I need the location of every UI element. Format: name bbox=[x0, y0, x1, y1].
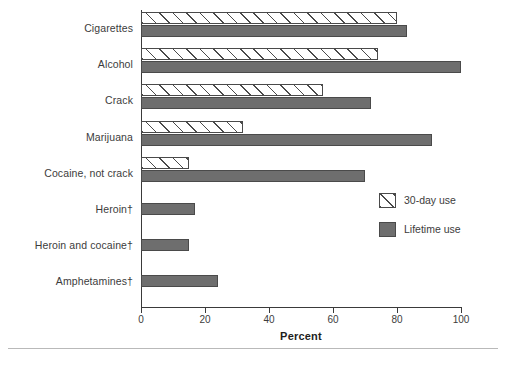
bar-row-cocaine-not-crack: Cocaine, not crack bbox=[141, 155, 461, 191]
legend-label-lifetime-use: Lifetime use bbox=[404, 223, 461, 235]
bar-row-cigarettes: Cigarettes bbox=[141, 10, 461, 46]
bar-lifetime-cocaine-not-crack bbox=[141, 170, 365, 182]
category-label-cocaine-not-crack: Cocaine, not crack bbox=[44, 167, 133, 179]
bar-30-day-cocaine-not-crack bbox=[141, 157, 189, 169]
category-label-heroin-and-cocaine: Heroin and cocaine† bbox=[35, 239, 133, 251]
solid-gray-swatch-icon bbox=[379, 222, 396, 237]
bar-row-alcohol: Alcohol bbox=[141, 46, 461, 82]
bar-30-day-crack bbox=[141, 84, 323, 96]
bar-row-amphetamines: Amphetamines† bbox=[141, 263, 461, 299]
bar-lifetime-heroin-and-cocaine bbox=[141, 239, 189, 251]
x-axis-title: Percent bbox=[141, 330, 461, 342]
x-tick-100 bbox=[461, 308, 462, 313]
category-label-cigarettes: Cigarettes bbox=[84, 22, 133, 34]
bar-lifetime-amphetamines bbox=[141, 275, 218, 287]
category-label-crack: Crack bbox=[105, 94, 133, 106]
bar-lifetime-alcohol bbox=[141, 61, 461, 73]
legend-item-lifetime-use: Lifetime use bbox=[379, 221, 499, 237]
legend-item-30-day-use: 30-day use bbox=[379, 192, 499, 208]
x-tick-label-40: 40 bbox=[263, 314, 274, 325]
chart-legend: 30-day use Lifetime use bbox=[379, 192, 499, 250]
category-label-alcohol: Alcohol bbox=[98, 58, 133, 70]
x-tick-40 bbox=[269, 308, 270, 313]
x-tick-label-0: 0 bbox=[138, 314, 144, 325]
bar-lifetime-heroin bbox=[141, 203, 195, 215]
category-label-amphetamines: Amphetamines† bbox=[56, 275, 133, 287]
category-label-heroin: Heroin† bbox=[96, 203, 133, 215]
bar-30-day-alcohol bbox=[141, 48, 378, 60]
x-tick-80 bbox=[397, 308, 398, 313]
bar-row-crack: Crack bbox=[141, 82, 461, 118]
x-tick-label-20: 20 bbox=[199, 314, 210, 325]
legend-label-30-day-use: 30-day use bbox=[404, 194, 456, 206]
x-tick-label-100: 100 bbox=[453, 314, 470, 325]
bar-30-day-cigarettes bbox=[141, 12, 397, 24]
bar-lifetime-cigarettes bbox=[141, 25, 407, 37]
bar-lifetime-marijuana bbox=[141, 134, 432, 146]
bar-lifetime-crack bbox=[141, 97, 371, 109]
bar-row-marijuana: Marijuana bbox=[141, 119, 461, 155]
footer-divider bbox=[8, 348, 498, 349]
hatched-swatch-icon bbox=[379, 193, 396, 208]
bar-chart-figure: CigarettesAlcoholCrackMarijuanaCocaine, … bbox=[0, 0, 506, 367]
category-label-marijuana: Marijuana bbox=[86, 131, 133, 143]
x-tick-0 bbox=[141, 308, 142, 313]
plot-area: CigarettesAlcoholCrackMarijuanaCocaine, … bbox=[141, 10, 461, 308]
x-tick-label-60: 60 bbox=[327, 314, 338, 325]
x-tick-label-80: 80 bbox=[391, 314, 402, 325]
x-tick-60 bbox=[333, 308, 334, 313]
x-tick-20 bbox=[205, 308, 206, 313]
bar-30-day-marijuana bbox=[141, 121, 243, 133]
